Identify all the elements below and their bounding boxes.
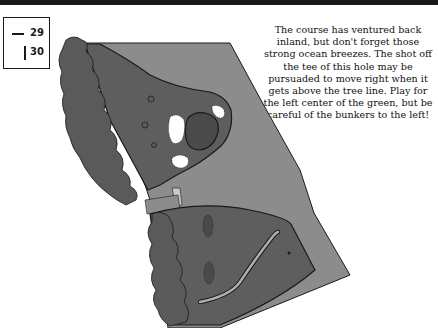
bunker-lower (204, 262, 214, 284)
shrub (148, 96, 154, 102)
hole-map (0, 0, 438, 328)
bunker-lower (203, 215, 213, 237)
shrub (142, 122, 148, 128)
bunker (172, 155, 188, 168)
shrub (152, 143, 157, 148)
bunker (168, 115, 184, 144)
flag-marker (288, 252, 291, 255)
